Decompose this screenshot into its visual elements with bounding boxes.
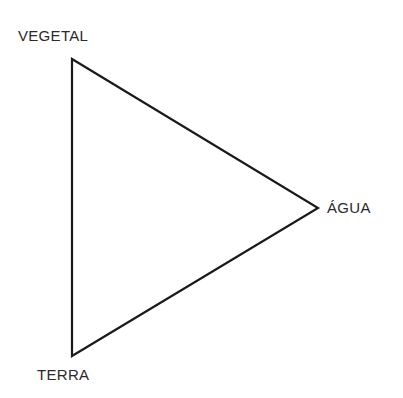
- label-vegetal: VEGETAL: [18, 28, 88, 43]
- triangle-shape: [72, 59, 318, 356]
- diagram-canvas: VEGETAL ÁGUA TERRA: [0, 0, 403, 398]
- label-agua: ÁGUA: [327, 200, 371, 215]
- label-terra: TERRA: [37, 367, 89, 382]
